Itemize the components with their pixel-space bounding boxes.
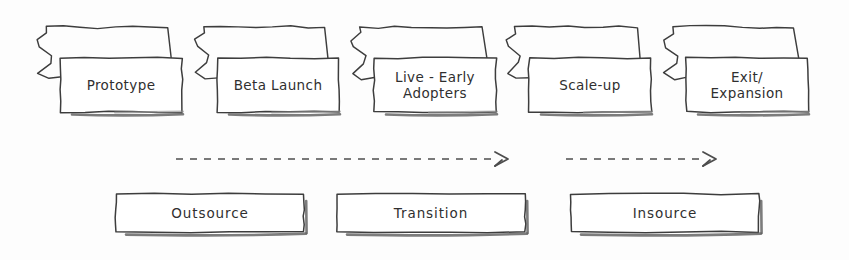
diagram-canvas: PrototypeBeta LaunchLive - Early Adopter… [0, 0, 849, 260]
stage-live-early[interactable] [351, 26, 497, 115]
arrow-transition-to-insource [566, 152, 716, 166]
phase-insource[interactable] [571, 193, 762, 235]
phase-transition[interactable] [337, 194, 528, 236]
phase-box-transition [337, 194, 526, 233]
phase-box-outsource [115, 193, 304, 233]
stage-card-scale-up [528, 57, 652, 113]
arrow-outsource-to-transition [176, 152, 508, 166]
stage-exit-expansion[interactable] [664, 25, 809, 115]
stage-card-prototype [60, 57, 183, 112]
stage-prototype[interactable] [37, 26, 183, 116]
phase-box-insource [571, 193, 760, 233]
stage-beta-launch[interactable] [195, 26, 340, 116]
phase-outsource[interactable] [115, 193, 306, 235]
stage-scale-up[interactable] [506, 26, 652, 115]
diagram-artwork [0, 0, 849, 260]
arrowhead-icon [703, 152, 716, 166]
stage-card-beta-launch [217, 57, 339, 112]
stage-card-exit-expansion [686, 57, 809, 112]
arrowhead-icon [495, 152, 508, 166]
stage-card-live-early [373, 57, 496, 113]
